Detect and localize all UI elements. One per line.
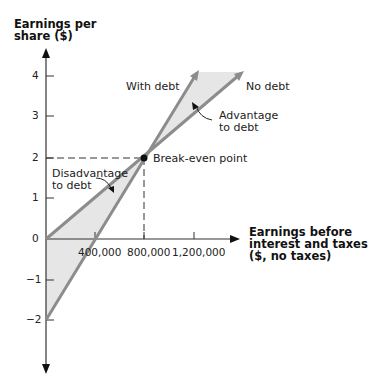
y-tick-label: −2 [26, 313, 41, 325]
with-debt-label: With debt [126, 81, 180, 93]
y-tick-label: 0 [32, 232, 39, 244]
break-even-label: Break-even point [153, 153, 247, 165]
advantage-label: Advantage to debt [219, 110, 278, 134]
y-tick-label: 4 [32, 69, 39, 81]
break-even-point [141, 155, 148, 162]
disadvantage-label: Disadvantage to debt [52, 168, 128, 192]
x-axis-arrow [230, 235, 240, 243]
x-tick-label: 1,200,000 [172, 246, 225, 258]
y-axis-up-arrow [42, 48, 50, 58]
no-debt-label: No debt [246, 81, 290, 93]
y-axis-label: Earnings per share ($) [14, 18, 96, 42]
x-ticks [95, 232, 194, 239]
x-tick-label: 400,000 [78, 246, 121, 258]
y-tick-label: −1 [26, 273, 41, 285]
with-debt-line [46, 76, 195, 320]
x-axis-label: Earnings before interest and taxes ($, n… [249, 226, 368, 262]
y-tick-label: 1 [32, 191, 39, 203]
y-tick-label: 2 [32, 151, 39, 163]
x-tick-label: 800,000 [127, 246, 170, 258]
y-axis-down-arrow [42, 364, 50, 374]
y-tick-label: 3 [32, 109, 39, 121]
